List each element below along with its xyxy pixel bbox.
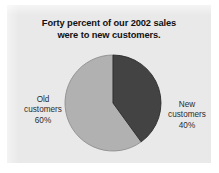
chart-title: Forty percent of our 2002 sales were to … [7,18,211,41]
pie-chart-figure: Forty percent of our 2002 sales were to … [0,0,219,173]
slice-label-new-line-2: customers [159,110,215,120]
slice-label-old-value: 60% [15,116,71,126]
chart-title-line-2: were to new customers. [7,30,211,42]
pie-svg [62,52,164,154]
slice-label-new-value: 40% [159,121,215,131]
slice-label-old-line-2: customers [15,105,71,115]
slice-label-new-line-1: New [159,100,215,110]
chart-title-line-1: Forty percent of our 2002 sales [7,18,211,30]
slice-label-old-customers: Old customers 60% [15,95,71,126]
slice-label-old-line-1: Old [15,95,71,105]
slice-label-new-customers: New customers 40% [159,100,215,131]
chart-panel: Forty percent of our 2002 sales were to … [7,5,211,163]
pie-graphic [62,52,164,154]
